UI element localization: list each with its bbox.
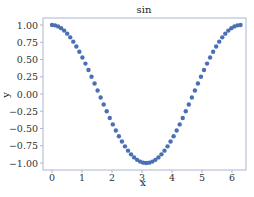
data-point [120,139,124,143]
y-tick-label: −0.75 [9,140,38,151]
data-point [205,61,209,65]
data-point [114,128,118,132]
data-point [77,50,81,54]
data-point [65,31,69,35]
data-point [162,148,166,152]
data-point [190,95,194,99]
y-tick-label: 0.25 [17,71,38,82]
y-axis-label: y [0,92,11,99]
data-point [174,128,178,132]
data-point [98,95,102,99]
data-point [196,81,200,85]
data-point [220,35,224,39]
data-point [123,144,127,148]
y-tick-label: 0.75 [17,37,38,48]
y-axis: 1.000.750.500.250.00−0.25−0.50−0.75−1.00 [9,20,43,169]
data-point [95,88,99,92]
data-point [193,88,197,92]
data-point [80,55,84,59]
data-point [83,61,87,65]
data-point [92,81,96,85]
data-point [184,109,188,113]
data-point [202,68,206,72]
data-point [177,122,181,126]
y-tick-label: 1.00 [17,20,38,31]
data-point [187,102,191,106]
y-tick-label: −0.25 [9,106,38,117]
data-point [108,116,112,120]
chart-canvas: sin 1.000.750.500.250.00−0.25−0.50−0.75−… [0,0,254,197]
data-point [214,44,218,48]
data-point [117,134,121,138]
data-series [50,23,243,165]
data-point [171,134,175,138]
x-tick-label: 4 [169,172,175,183]
data-point [111,122,115,126]
y-tick-label: 0.00 [17,89,38,100]
data-point [181,116,185,120]
data-point [168,139,172,143]
data-point [199,75,203,79]
y-tick-label: 0.50 [17,54,38,65]
data-point [86,68,90,72]
data-point [126,148,130,152]
data-point [217,39,221,43]
x-tick-label: 1 [79,172,85,183]
data-point [208,55,212,59]
x-tick-label: 6 [229,172,235,183]
y-tick-label: −1.00 [9,158,38,169]
x-tick-label: 2 [109,172,115,183]
chart-title: sin [137,4,152,15]
x-axis-label: x [140,177,146,188]
data-point [159,152,163,156]
data-point [89,75,93,79]
data-point [68,35,72,39]
data-point [105,109,109,113]
data-point [211,50,215,54]
y-tick-label: −0.50 [9,123,38,134]
data-point [71,39,75,43]
x-tick-label: 5 [199,172,205,183]
data-point [165,144,169,148]
data-point [74,44,78,48]
data-point [101,102,105,106]
data-point [238,23,242,27]
x-tick-label: 0 [49,172,55,183]
